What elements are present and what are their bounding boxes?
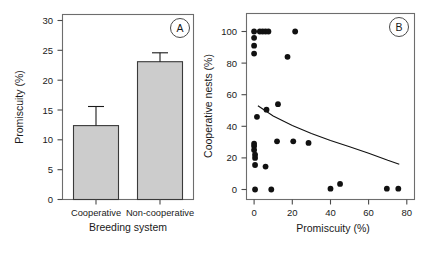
panel-a-ytick-25: 25 — [42, 45, 53, 56]
panel-a-ytick-10: 10 — [42, 134, 53, 145]
scatter-point — [254, 114, 260, 120]
panel-a-ytick-5: 5 — [48, 164, 53, 175]
panel-b-y-axis-title: Cooperative nests (%) — [202, 54, 214, 158]
panel-b-scatter-points — [251, 29, 401, 193]
panel-a-y-axis-title: Promiscuity (%) — [13, 70, 25, 144]
panel-a-x-axis-title: Breeding system — [89, 221, 167, 233]
panel-b-fit-curve — [258, 106, 399, 164]
panel-b-ytick-40: 40 — [226, 121, 237, 132]
panel-b-xtick-0: 0 — [251, 207, 256, 218]
panel-a-y-axis: 0 5 10 15 20 25 30 — [42, 15, 62, 205]
scatter-point — [384, 186, 390, 192]
scatter-point — [264, 107, 270, 113]
panel-b-xtick-60: 60 — [363, 207, 374, 218]
scatter-point — [252, 187, 258, 193]
panel-b-label: B — [390, 18, 409, 37]
two-panel-figure: 0 5 10 15 20 25 30 Promiscuity (%) — [0, 0, 447, 257]
panel-a: 0 5 10 15 20 25 30 Promiscuity (%) — [13, 15, 194, 234]
scatter-point — [306, 140, 312, 146]
bar-non-cooperative — [138, 62, 183, 200]
panel-b-x-axis-title: Promiscuity (%) — [296, 222, 370, 234]
panel-b-label-letter: B — [395, 21, 402, 33]
panel-b-xtick-40: 40 — [325, 207, 336, 218]
scatter-point — [275, 101, 281, 107]
figure-container: 0 5 10 15 20 25 30 Promiscuity (%) — [0, 0, 447, 257]
panel-b: 0 20 40 60 80 100 Cooperative nests (%) … — [202, 14, 415, 235]
panel-a-label: A — [171, 19, 190, 38]
scatter-point — [285, 54, 291, 60]
scatter-point — [292, 29, 298, 35]
scatter-point — [251, 51, 257, 57]
scatter-point — [266, 29, 272, 35]
scatter-point — [252, 155, 258, 161]
scatter-point — [328, 186, 334, 192]
panel-a-x-axis: Cooperative Non-cooperative — [71, 200, 194, 219]
error-bar-cooperative — [88, 107, 104, 126]
panel-a-ytick-20: 20 — [42, 75, 53, 86]
scatter-point — [268, 187, 274, 193]
panel-b-xtick-20: 20 — [287, 207, 298, 218]
bar-cooperative — [74, 126, 119, 200]
panel-b-frame — [247, 14, 415, 200]
panel-b-x-axis: 0 20 40 60 80 — [251, 200, 412, 219]
scatter-point — [290, 138, 296, 144]
scatter-point — [251, 43, 257, 49]
panel-a-ytick-0: 0 — [48, 194, 53, 205]
panel-b-y-axis: 0 20 40 60 80 100 — [221, 26, 246, 195]
panel-a-xtick-cooperative: Cooperative — [71, 208, 121, 218]
scatter-point — [251, 35, 257, 41]
scatter-point — [252, 162, 258, 168]
scatter-point — [395, 186, 401, 192]
scatter-point — [337, 181, 343, 187]
panel-a-xtick-non-cooperative: Non-cooperative — [126, 208, 194, 218]
panel-b-ytick-20: 20 — [226, 152, 237, 163]
panel-b-ytick-80: 80 — [226, 58, 237, 69]
error-bar-non-cooperative — [152, 53, 168, 62]
scatter-point — [274, 138, 280, 144]
scatter-point — [251, 29, 257, 35]
scatter-point — [263, 164, 269, 170]
panel-a-bars — [74, 62, 183, 200]
panel-b-ytick-100: 100 — [221, 26, 237, 37]
panel-b-xtick-80: 80 — [402, 207, 413, 218]
panel-a-ytick-30: 30 — [42, 15, 53, 26]
panel-a-label-letter: A — [176, 22, 183, 34]
panel-b-ytick-0: 0 — [232, 184, 237, 195]
panel-b-ytick-60: 60 — [226, 89, 237, 100]
panel-a-ytick-15: 15 — [42, 105, 53, 116]
